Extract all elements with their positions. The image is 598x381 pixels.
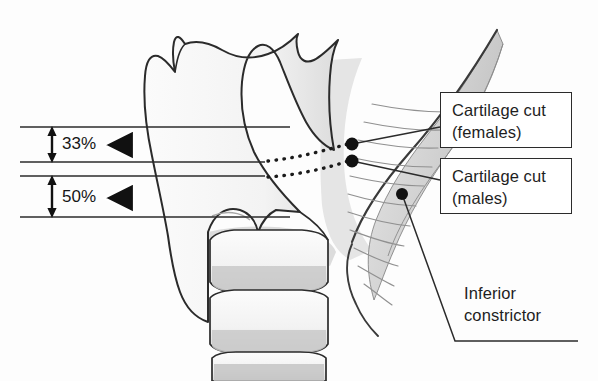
dimension-arrow-50 <box>47 175 56 218</box>
cut-point-females-dot <box>346 138 359 151</box>
measurement-label-50: 50% <box>62 187 96 207</box>
inferior-constrictor-line1: Inferior <box>464 283 541 305</box>
inferior-constrictor-dot <box>396 188 408 200</box>
measurement-label-33: 33% <box>62 134 96 154</box>
inferior-constrictor-line2: constrictor <box>464 305 541 327</box>
cut-point-males-dot <box>346 155 359 168</box>
cricoid-shading <box>212 266 326 292</box>
dimension-arrows <box>47 126 56 218</box>
triangle-left-icon-50 <box>104 183 134 213</box>
figure-canvas: 33% 50% Cartilage cut (females) Cartilag… <box>0 0 598 381</box>
label-inferior-constrictor: Inferior constrictor <box>464 283 541 327</box>
tracheal-rings <box>210 212 328 381</box>
callout-males-line1: Cartilage cut <box>452 166 571 188</box>
callout-females-line1: Cartilage cut <box>452 100 571 122</box>
callout-females-line2: (females) <box>452 122 571 144</box>
triangle-pointer-markers <box>104 130 134 213</box>
callout-cartilage-cut-males: Cartilage cut (males) <box>440 158 572 214</box>
dimension-arrow-33 <box>47 126 56 163</box>
tracheal-ring-2-shading <box>214 364 324 381</box>
triangle-left-icon-33 <box>104 130 134 160</box>
tracheal-ring-1-shading <box>212 330 326 353</box>
callout-cartilage-cut-females: Cartilage cut (females) <box>440 92 572 148</box>
callout-males-line2: (males) <box>452 188 571 210</box>
